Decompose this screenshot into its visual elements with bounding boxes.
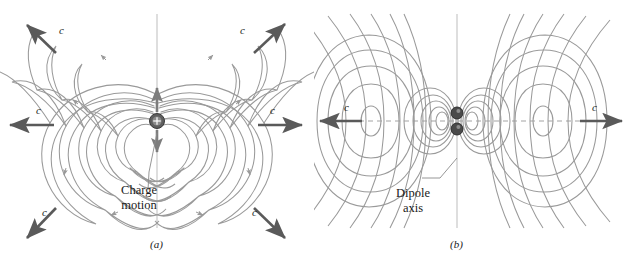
- dipole-axis-line1: Dipole: [396, 186, 430, 200]
- speed-arrow-upper-right: [254, 24, 285, 53]
- speed-label-right-a: c: [270, 104, 275, 116]
- speed-label-lower-right-a: c: [252, 206, 257, 218]
- dipole-axis-line2: axis: [403, 201, 423, 215]
- panel-b: c c Dipole axis (b): [314, 0, 628, 262]
- dipole-axis-leader-line: [422, 158, 457, 178]
- speed-arrow-lower-right: [254, 208, 285, 238]
- speed-label-left-b: c: [344, 101, 349, 113]
- speed-label-upper-right-a: c: [240, 24, 245, 36]
- speed-label-lower-left-a: c: [42, 206, 47, 218]
- point-charge: [150, 114, 165, 129]
- charge-motion-line1: Charge: [121, 183, 157, 197]
- speed-label-upper-left-a: c: [59, 24, 64, 36]
- panel-a-diagram: [0, 0, 314, 262]
- panel-a-caption: (a): [150, 238, 163, 250]
- speed-label-left-a: c: [36, 104, 41, 116]
- charge-motion-line2: motion: [121, 198, 156, 212]
- figure-container: c c c c c c Charge motion (a): [0, 0, 628, 262]
- panel-b-caption: (b): [450, 238, 463, 250]
- charge-motion-label: Charge motion: [108, 183, 170, 213]
- speed-label-right-b: c: [592, 101, 597, 113]
- panel-b-diagram: [314, 0, 628, 262]
- panel-a: c c c c c c Charge motion (a): [0, 0, 314, 262]
- dipole-axis-label: Dipole axis: [382, 186, 444, 216]
